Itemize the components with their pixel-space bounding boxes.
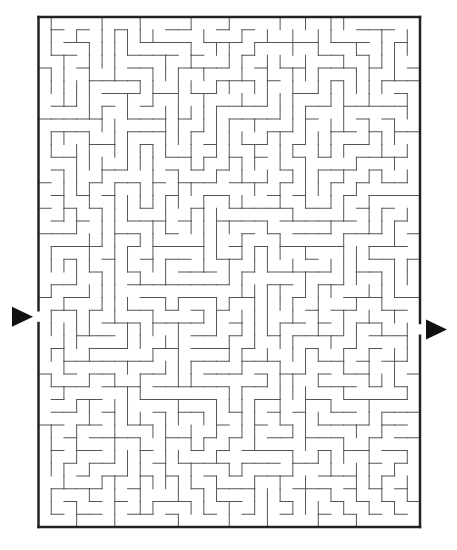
maze-board[interactable] bbox=[0, 0, 457, 550]
maze-walls bbox=[39, 17, 421, 527]
finish-arrow-icon bbox=[426, 319, 447, 339]
start-arrow-icon bbox=[12, 307, 33, 327]
